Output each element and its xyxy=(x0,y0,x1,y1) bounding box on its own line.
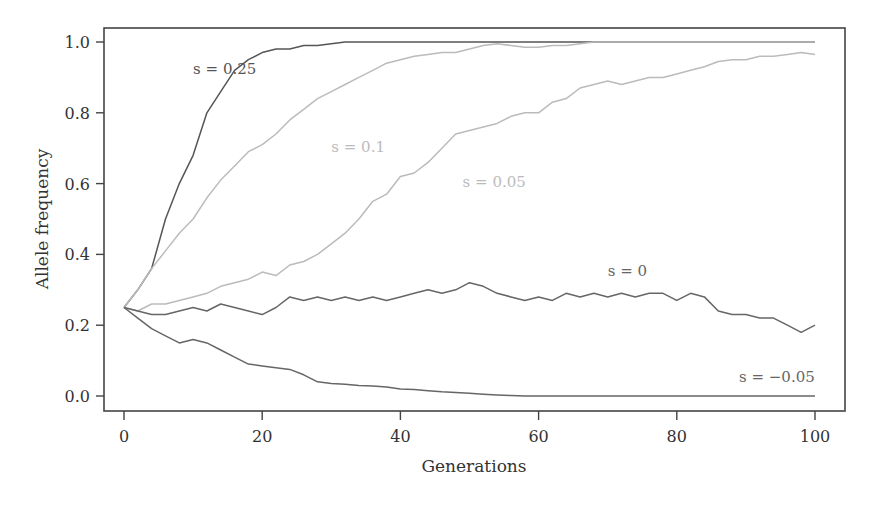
series-line xyxy=(124,308,815,397)
plot-frame xyxy=(104,28,845,411)
series-labels: s = 0.25s = 0.1s = 0.05s = 0s = −0.05 xyxy=(193,60,815,386)
y-tick-label: 0.8 xyxy=(65,104,90,123)
y-tick-label: 0.4 xyxy=(65,245,90,264)
y-tick-label: 1.0 xyxy=(65,33,90,52)
x-axis-title: Generations xyxy=(421,456,526,476)
series-lines xyxy=(124,42,815,396)
x-axis: 020406080100 xyxy=(119,411,830,446)
x-tick-label: 100 xyxy=(800,427,831,446)
series-label: s = 0.05 xyxy=(463,173,526,191)
x-tick-label: 60 xyxy=(528,427,548,446)
y-tick-label: 0.0 xyxy=(65,387,90,406)
series-label: s = 0 xyxy=(608,262,647,280)
line-chart: 0.00.20.40.60.81.0 020406080100 s = 0.25… xyxy=(0,0,873,508)
x-tick-label: 20 xyxy=(252,427,272,446)
y-tick-label: 0.2 xyxy=(65,316,90,335)
x-tick-label: 40 xyxy=(390,427,410,446)
x-tick-label: 0 xyxy=(119,427,129,446)
series-label: s = −0.05 xyxy=(739,368,815,386)
series-label: s = 0.25 xyxy=(193,60,256,78)
y-axis: 0.00.20.40.60.81.0 xyxy=(65,33,104,406)
series-line xyxy=(124,283,815,333)
y-axis-title: Allele frequency xyxy=(32,148,52,290)
series-label: s = 0.1 xyxy=(331,138,385,156)
y-tick-label: 0.6 xyxy=(65,175,90,194)
x-tick-label: 80 xyxy=(667,427,687,446)
